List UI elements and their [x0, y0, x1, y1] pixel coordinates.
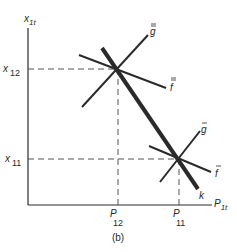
- x-axis-label: P1t: [214, 198, 228, 212]
- label-f-bar: f: [215, 168, 219, 179]
- label-g-double-bar: g: [150, 26, 156, 37]
- label-f-double-bar: f: [170, 82, 174, 93]
- y-tick-x11: x11: [4, 153, 21, 168]
- line-f-double-bar: [79, 55, 166, 88]
- x-tick-p11-sub: 11: [176, 218, 185, 228]
- label-k: k: [199, 190, 205, 201]
- x-tick-p12-sub: 12: [113, 218, 123, 228]
- figure-caption: (b): [112, 232, 124, 243]
- label-g-bar: g: [201, 124, 207, 135]
- y-tick-x12: x12: [2, 63, 20, 78]
- line-g-double-bar: [82, 35, 148, 107]
- diagram: x1t P1t x12 x11 P 12 P 11 k g f g f (b): [0, 0, 237, 252]
- y-axis-label: x1t: [23, 13, 36, 27]
